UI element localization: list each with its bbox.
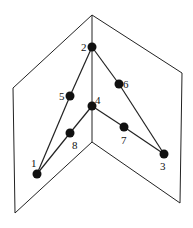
node-label-7: 7	[121, 134, 127, 146]
node-label-4: 4	[95, 94, 101, 106]
edge-1-8	[37, 133, 70, 174]
node-label-6: 6	[123, 78, 129, 90]
node-label-3: 3	[160, 160, 166, 172]
book-graph-diagram: 12345678	[0, 0, 193, 228]
node-label-2: 2	[81, 41, 87, 53]
edge-1-5	[37, 96, 70, 174]
edge-4-7	[92, 106, 124, 127]
graph-nodes	[33, 43, 169, 179]
node-labels: 12345678	[31, 41, 166, 172]
planes	[13, 15, 182, 213]
node-3	[160, 150, 169, 159]
node-label-1: 1	[31, 157, 37, 169]
node-label-8: 8	[72, 139, 78, 151]
edge-7-3	[124, 127, 164, 154]
graph-edges	[37, 47, 164, 174]
edge-8-4	[70, 106, 92, 133]
node-2	[88, 43, 97, 52]
plane-outline	[13, 15, 182, 213]
node-1	[33, 170, 42, 179]
node-7	[120, 123, 129, 132]
edge-2-6	[92, 47, 119, 84]
node-8	[66, 129, 75, 138]
node-label-5: 5	[59, 90, 65, 102]
edge-5-2	[70, 47, 92, 96]
node-5	[66, 92, 75, 101]
